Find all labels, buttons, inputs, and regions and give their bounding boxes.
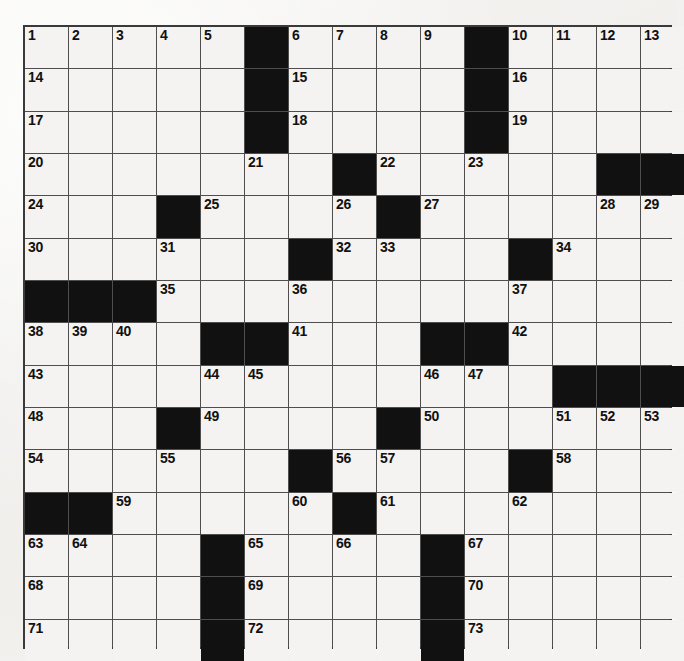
grid-cell[interactable]: [641, 239, 684, 280]
grid-cell[interactable]: [641, 577, 684, 618]
grid-cell[interactable]: [69, 196, 112, 237]
grid-cell[interactable]: [597, 239, 640, 280]
grid-cell[interactable]: [377, 366, 420, 407]
grid-cell[interactable]: [245, 281, 288, 322]
grid-cell[interactable]: 16: [509, 69, 552, 110]
grid-cell[interactable]: 43: [25, 366, 68, 407]
grid-cell[interactable]: [113, 112, 156, 153]
grid-cell[interactable]: [333, 620, 376, 661]
grid-cell[interactable]: 3: [113, 27, 156, 68]
grid-cell[interactable]: 15: [289, 69, 332, 110]
grid-cell[interactable]: [201, 69, 244, 110]
grid-cell[interactable]: [69, 577, 112, 618]
grid-cell[interactable]: 22: [377, 154, 420, 195]
grid-cell[interactable]: [597, 450, 640, 491]
grid-cell[interactable]: [553, 196, 596, 237]
grid-cell[interactable]: 23: [465, 154, 508, 195]
grid-cell[interactable]: 19: [509, 112, 552, 153]
grid-cell[interactable]: 56: [333, 450, 376, 491]
grid-cell[interactable]: [377, 620, 420, 661]
grid-cell[interactable]: [597, 493, 640, 534]
grid-cell[interactable]: [113, 239, 156, 280]
grid-cell[interactable]: 26: [333, 196, 376, 237]
grid-cell[interactable]: [377, 323, 420, 364]
grid-cell[interactable]: [289, 196, 332, 237]
grid-cell[interactable]: 42: [509, 323, 552, 364]
grid-cell[interactable]: [597, 620, 640, 661]
grid-cell[interactable]: 51: [553, 408, 596, 449]
grid-cell[interactable]: [641, 450, 684, 491]
grid-cell[interactable]: [641, 620, 684, 661]
grid-cell[interactable]: 32: [333, 239, 376, 280]
grid-cell[interactable]: [113, 577, 156, 618]
grid-cell[interactable]: 63: [25, 535, 68, 576]
grid-cell[interactable]: 55: [157, 450, 200, 491]
grid-cell[interactable]: [421, 239, 464, 280]
grid-cell[interactable]: [69, 620, 112, 661]
grid-cell[interactable]: 67: [465, 535, 508, 576]
grid-cell[interactable]: 71: [25, 620, 68, 661]
grid-cell[interactable]: 39: [69, 323, 112, 364]
grid-cell[interactable]: [553, 620, 596, 661]
grid-cell[interactable]: 45: [245, 366, 288, 407]
grid-cell[interactable]: 61: [377, 493, 420, 534]
grid-cell[interactable]: 48: [25, 408, 68, 449]
grid-cell[interactable]: 25: [201, 196, 244, 237]
grid-cell[interactable]: [553, 577, 596, 618]
grid-cell[interactable]: 2: [69, 27, 112, 68]
grid-cell[interactable]: 60: [289, 493, 332, 534]
grid-cell[interactable]: 64: [69, 535, 112, 576]
grid-cell[interactable]: 70: [465, 577, 508, 618]
grid-cell[interactable]: 52: [597, 408, 640, 449]
grid-cell[interactable]: 30: [25, 239, 68, 280]
grid-cell[interactable]: 33: [377, 239, 420, 280]
crossword-grid[interactable]: 1234567891011121314151617181920212223242…: [23, 25, 672, 649]
grid-cell[interactable]: [69, 112, 112, 153]
grid-cell[interactable]: [421, 69, 464, 110]
grid-cell[interactable]: [465, 239, 508, 280]
grid-cell[interactable]: 6: [289, 27, 332, 68]
grid-cell[interactable]: [333, 69, 376, 110]
grid-cell[interactable]: [69, 450, 112, 491]
grid-cell[interactable]: [509, 408, 552, 449]
grid-cell[interactable]: [641, 323, 684, 364]
grid-cell[interactable]: [641, 281, 684, 322]
grid-cell[interactable]: 24: [25, 196, 68, 237]
grid-cell[interactable]: [465, 450, 508, 491]
grid-cell[interactable]: [113, 450, 156, 491]
grid-cell[interactable]: [289, 154, 332, 195]
grid-cell[interactable]: 27: [421, 196, 464, 237]
grid-cell[interactable]: 20: [25, 154, 68, 195]
grid-cell[interactable]: 47: [465, 366, 508, 407]
grid-cell[interactable]: [597, 281, 640, 322]
grid-cell[interactable]: [245, 408, 288, 449]
grid-cell[interactable]: [421, 112, 464, 153]
grid-cell[interactable]: [113, 620, 156, 661]
grid-cell[interactable]: [289, 620, 332, 661]
grid-cell[interactable]: [245, 493, 288, 534]
grid-cell[interactable]: 4: [157, 27, 200, 68]
grid-cell[interactable]: [597, 323, 640, 364]
grid-cell[interactable]: [245, 196, 288, 237]
grid-cell[interactable]: 40: [113, 323, 156, 364]
grid-cell[interactable]: 49: [201, 408, 244, 449]
grid-cell[interactable]: [113, 535, 156, 576]
grid-cell[interactable]: [421, 281, 464, 322]
grid-cell[interactable]: [553, 112, 596, 153]
grid-cell[interactable]: 28: [597, 196, 640, 237]
grid-cell[interactable]: [113, 69, 156, 110]
grid-cell[interactable]: 44: [201, 366, 244, 407]
grid-cell[interactable]: 35: [157, 281, 200, 322]
grid-cell[interactable]: [69, 366, 112, 407]
grid-cell[interactable]: [421, 450, 464, 491]
grid-cell[interactable]: [641, 493, 684, 534]
grid-cell[interactable]: 72: [245, 620, 288, 661]
grid-cell[interactable]: 65: [245, 535, 288, 576]
grid-cell[interactable]: 21: [245, 154, 288, 195]
grid-cell[interactable]: [289, 535, 332, 576]
grid-cell[interactable]: [465, 196, 508, 237]
grid-cell[interactable]: [113, 196, 156, 237]
grid-cell[interactable]: [157, 366, 200, 407]
grid-cell[interactable]: [333, 323, 376, 364]
grid-cell[interactable]: [157, 154, 200, 195]
